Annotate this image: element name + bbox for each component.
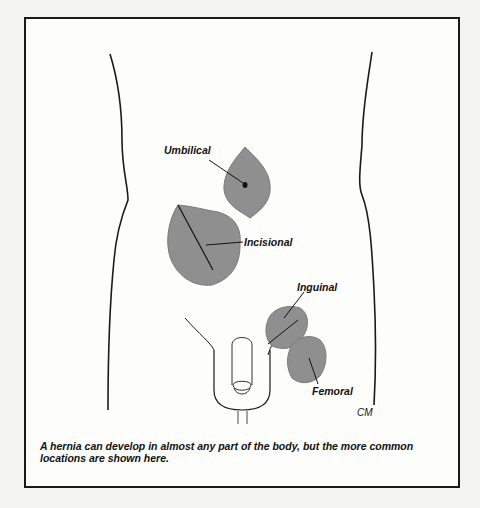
- figure-caption: A hernia can develop in almost any part …: [40, 440, 440, 464]
- inguinal-label: Inguinal: [297, 281, 337, 293]
- umbilical-label: Umbilical: [164, 144, 211, 156]
- incisional-hernia: [168, 205, 241, 285]
- artist-signature: CM: [357, 407, 373, 418]
- torso-illustration: [0, 0, 480, 508]
- umbilical-hernia: [224, 147, 270, 218]
- genital-outline: [214, 350, 270, 410]
- torso-left-outline: [108, 54, 128, 410]
- femoral-hernia: [288, 337, 327, 383]
- femoral-label: Femoral: [312, 385, 353, 397]
- incisional-label: Incisional: [244, 236, 292, 248]
- torso-right-outline: [360, 52, 376, 405]
